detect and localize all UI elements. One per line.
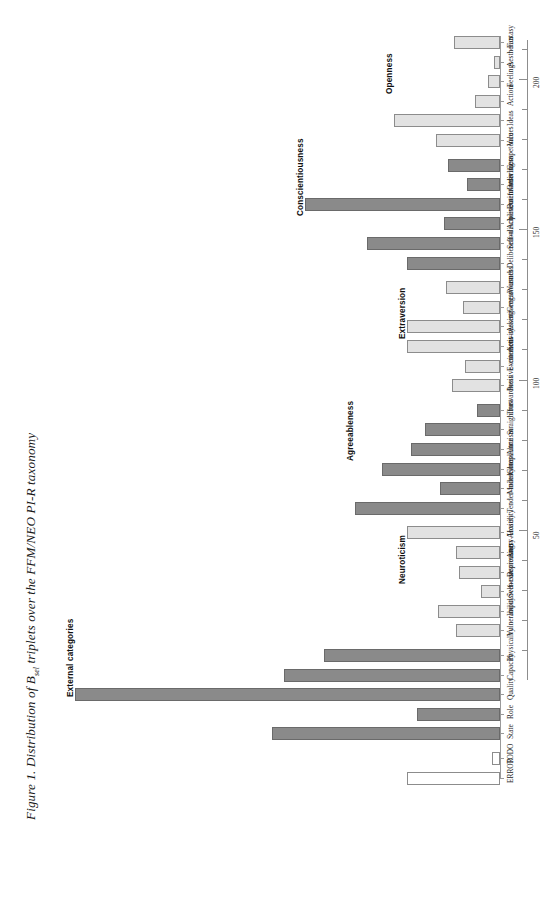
value-tick-minor — [522, 650, 528, 651]
category-axis-line — [500, 36, 501, 778]
bar-physicality — [324, 649, 500, 662]
value-tick-minor — [522, 440, 528, 441]
category-label-deliberation: Deliberation — [506, 231, 515, 268]
category-tick — [500, 140, 504, 141]
value-tick-label-50: 50 — [532, 531, 541, 539]
value-tick-label-150: 150 — [532, 227, 541, 238]
category-tick — [500, 572, 504, 573]
category-tick — [500, 307, 504, 308]
value-tick-minor — [522, 410, 528, 411]
group-label-neuroticism: Neuroticism — [398, 535, 407, 584]
value-tick-label-100: 100 — [532, 377, 541, 388]
category-label-error: ERROR — [506, 758, 515, 783]
bar-actions — [475, 95, 500, 108]
bar-feelings — [488, 75, 500, 88]
category-tick — [500, 62, 504, 63]
bar-state — [272, 727, 500, 740]
bar-depression — [459, 566, 501, 579]
category-tick — [500, 758, 504, 759]
bar-orderliness — [467, 178, 500, 191]
category-tick — [500, 81, 504, 82]
category-tick — [500, 655, 504, 656]
bar-achievement-striving — [444, 217, 500, 230]
value-tick-major-50 — [519, 530, 528, 531]
value-tick-minor — [522, 289, 528, 290]
group-label-openness: Openness — [385, 53, 394, 94]
category-label-state: State — [506, 724, 515, 739]
bar-self-consciousness — [481, 585, 500, 598]
category-tick — [500, 42, 504, 43]
category-tick — [500, 287, 504, 288]
value-tick-minor — [522, 199, 528, 200]
category-tick — [500, 223, 504, 224]
bar-dutifulness — [305, 198, 500, 211]
value-tick-minor — [522, 169, 528, 170]
value-tick-minor — [522, 620, 528, 621]
category-tick — [500, 778, 504, 779]
category-tick — [500, 165, 504, 166]
value-tick-major-150 — [519, 229, 528, 230]
category-tick — [500, 611, 504, 612]
category-tick — [500, 714, 504, 715]
category-tick — [500, 630, 504, 631]
value-tick-minor — [522, 319, 528, 320]
value-tick-minor — [522, 470, 528, 471]
category-tick — [500, 243, 504, 244]
category-tick — [500, 694, 504, 695]
bar-activity — [407, 340, 500, 353]
category-tick — [500, 410, 504, 411]
bar-todo — [492, 752, 500, 765]
value-tick-minor — [522, 500, 528, 501]
bar-capacity — [284, 669, 500, 682]
bar-vulnerability — [456, 624, 500, 637]
group-label-agreeableness: Agreeableness — [346, 401, 355, 461]
value-tick-minor — [522, 259, 528, 260]
category-label-role: Role — [506, 705, 515, 719]
value-tick-label-200: 200 — [532, 77, 541, 88]
category-tick — [500, 429, 504, 430]
category-tick — [500, 346, 504, 347]
category-tick — [500, 449, 504, 450]
category-tick — [500, 675, 504, 676]
category-tick — [500, 184, 504, 185]
category-tick — [500, 488, 504, 489]
category-tick — [500, 366, 504, 367]
value-tick-major-100 — [519, 380, 528, 381]
value-tick-minor — [522, 560, 528, 561]
bar-tender-mindedness — [355, 502, 500, 515]
bar-chart-plot-area: FantasyAestheticsFeelingsActionsIdeasVal… — [30, 0, 559, 900]
value-tick-minor — [522, 109, 528, 110]
bar-ideas — [394, 114, 500, 127]
bar-error — [407, 772, 500, 785]
category-tick — [500, 120, 504, 121]
group-label-extraversion: Extraversion — [398, 287, 407, 338]
category-tick — [500, 508, 504, 509]
value-tick-minor — [522, 49, 528, 50]
category-tick — [500, 733, 504, 734]
bar-quality — [75, 688, 500, 701]
bar-positive-emotions — [452, 379, 500, 392]
bar-role — [417, 708, 500, 721]
group-label-conscientiousness: Conscientiousness — [296, 138, 305, 216]
value-tick-minor — [522, 349, 528, 350]
category-label-actions: Actions — [506, 83, 515, 106]
bar-impulsiveness — [438, 605, 500, 618]
bar-fantasy — [454, 36, 500, 49]
bar-trust — [477, 404, 500, 417]
category-tick — [500, 591, 504, 592]
category-tick — [500, 326, 504, 327]
bar-compliance — [382, 463, 500, 476]
value-tick-major-200 — [519, 79, 528, 80]
value-tick-minor — [522, 590, 528, 591]
category-tick — [500, 101, 504, 102]
category-label-straightforwardness: Straightforwardness — [506, 375, 515, 435]
category-label-tender-mindedness: Tender–mindedness — [506, 454, 515, 513]
bar-values — [436, 134, 500, 147]
category-tick — [500, 385, 504, 386]
figure-caption: Figure 1. Distribution of Bsel triplets … — [0, 0, 30, 900]
category-tick — [500, 263, 504, 264]
category-tick — [500, 552, 504, 553]
bar-deliberation — [407, 257, 500, 270]
bar-competence — [448, 159, 500, 172]
group-label-external-categories: External categories — [66, 618, 75, 696]
